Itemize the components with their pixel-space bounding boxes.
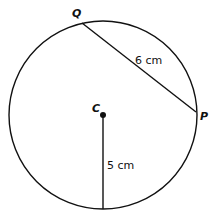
- center-point: [100, 112, 106, 118]
- point-q-label: Q: [72, 7, 81, 20]
- chord-qp: [82, 23, 196, 112]
- radius-length-label: 5 cm: [107, 159, 134, 172]
- point-c-label: C: [92, 102, 100, 115]
- circle-diagram: Q P C 6 cm 5 cm: [0, 0, 219, 216]
- point-p-label: P: [200, 110, 208, 123]
- chord-length-label: 6 cm: [135, 54, 162, 67]
